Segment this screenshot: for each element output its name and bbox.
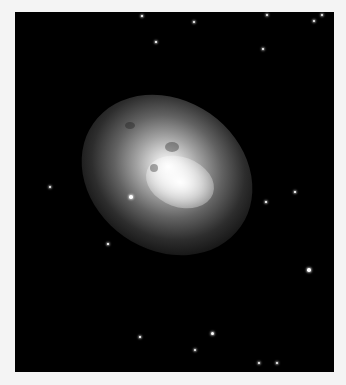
star <box>265 201 267 203</box>
star <box>321 14 323 16</box>
star <box>262 48 264 50</box>
star <box>307 268 311 272</box>
star <box>294 191 296 193</box>
star <box>139 336 141 338</box>
star <box>129 195 133 199</box>
star <box>211 332 214 335</box>
dust-lane <box>150 164 158 172</box>
star <box>276 362 278 364</box>
star <box>193 21 195 23</box>
star <box>313 20 315 22</box>
star <box>141 15 143 17</box>
star <box>155 41 157 43</box>
galaxy-image <box>15 12 334 372</box>
star <box>49 186 51 188</box>
star <box>194 349 196 351</box>
dust-lane <box>165 142 179 152</box>
star <box>107 243 109 245</box>
dust-lane <box>125 122 135 129</box>
star <box>266 14 268 16</box>
star <box>258 362 260 364</box>
